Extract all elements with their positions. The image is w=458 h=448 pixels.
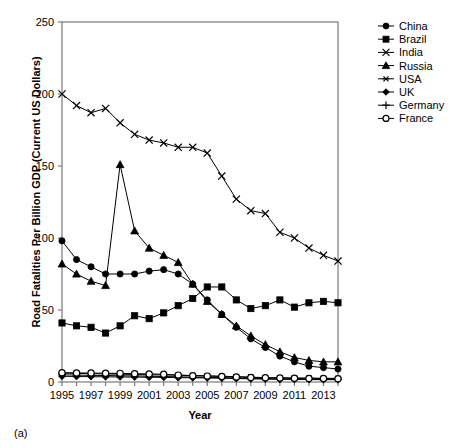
x-axis-title: Year [62,409,338,421]
series-china [59,238,341,372]
series-russia [58,161,342,365]
legend-item-india[interactable]: India [378,46,424,58]
chart-legend: ChinaBrazilIndiaRussiaUSAUKGermanyFrance [378,20,445,124]
legend-item-usa[interactable]: USA [378,73,422,85]
x-tick-label: 2011 [283,389,307,401]
x-tick-label: 2007 [224,389,248,401]
line-chart: 050100150200250 199519971999200120032005… [0,0,458,448]
y-tick-label: 250 [36,16,54,28]
x-tick-label: 1995 [50,389,74,401]
figure-caption: (a) [14,427,27,439]
figure-panel-a: 050100150200250 199519971999200120032005… [0,0,458,448]
x-tick-label: 2005 [195,389,219,401]
x-tick-label: 2009 [253,389,277,401]
legend-item-france[interactable]: France [378,112,433,124]
x-axis: 1995199719992001200320052007200920112013 [50,382,338,401]
data-series-layer [58,90,342,383]
legend-label: UK [399,86,415,98]
x-tick-label: 2003 [166,389,190,401]
legend-item-russia[interactable]: Russia [378,60,434,72]
legend-label: China [399,20,429,32]
legend-label: Russia [399,60,434,72]
legend-label: USA [399,73,422,85]
legend-item-brazil[interactable]: Brazil [378,33,427,45]
x-tick-label: 2001 [137,389,161,401]
series-india [58,90,341,264]
y-tick-label: 50 [42,304,54,316]
y-tick-label: 0 [48,376,54,388]
legend-item-germany[interactable]: Germany [378,99,445,111]
legend-label: Brazil [399,33,427,45]
plot-frame [62,22,338,382]
legend-label: India [399,46,424,58]
y-axis-title: Road Fatalities Per Billion GDP (Current… [30,52,42,332]
legend-item-china[interactable]: China [378,20,429,32]
x-tick-label: 1999 [108,389,132,401]
legend-label: France [399,112,433,124]
x-tick-label: 1997 [79,389,103,401]
x-tick-label: 2013 [311,389,335,401]
legend-label: Germany [399,99,445,111]
legend-item-uk[interactable]: UK [378,86,415,98]
